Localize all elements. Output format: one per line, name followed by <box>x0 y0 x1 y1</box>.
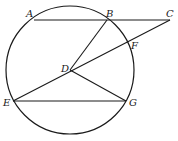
line-segments <box>13 20 170 101</box>
label-a: A <box>25 8 33 19</box>
label-d: D <box>60 63 69 74</box>
label-f: F <box>130 40 139 51</box>
segment-dg <box>70 70 126 101</box>
label-e: E <box>2 97 11 108</box>
label-b: B <box>105 8 113 19</box>
segment-ce <box>13 20 170 101</box>
label-g: G <box>129 97 137 108</box>
label-c: C <box>166 8 174 19</box>
geometry-diagram: A B C F D E G <box>0 0 178 141</box>
